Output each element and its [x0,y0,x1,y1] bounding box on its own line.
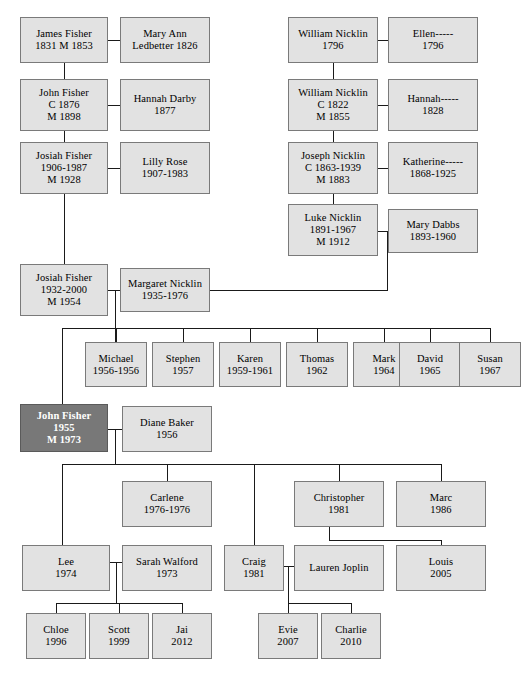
person-box-josiah_fisher2: Josiah Fisher1932-2000M 1954 [20,264,108,316]
connector-drop-jai [182,603,183,613]
person-line: Margaret Nicklin [128,278,202,290]
person-line: Sarah Walford [136,556,198,568]
person-line: Joseph Nicklin [301,150,365,162]
person-box-william_nicklin1: William Nicklin1796 [288,17,378,63]
person-line: 1981 [243,568,264,580]
person-line: 1906-1987 [41,162,87,174]
person-box-evie: Evie2007 [258,613,318,659]
person-line: 1981 [328,504,349,516]
connector-craig-lauren-marriage [284,566,294,567]
person-line: Hannah----- [407,93,458,105]
person-box-ellen: Ellen-----1796 [388,17,478,63]
person-box-karen: Karen1959-1961 [219,342,281,387]
connector-drop-karen [250,328,251,342]
person-line: Evie [278,624,298,636]
person-line: William Nicklin [298,87,368,99]
person-line: 1962 [306,365,327,377]
person-line: 2007 [277,636,298,648]
connector-drop-scott [119,603,120,613]
person-box-stephen: Stephen1957 [152,342,214,387]
person-line: Mark [372,353,395,365]
person-line: Ellen----- [413,28,454,40]
connector-craig-lauren-drop [288,566,289,603]
connector-craig-children-bar [288,603,351,604]
person-box-louis: Louis2005 [396,545,486,591]
person-line: 1956-1956 [93,365,139,377]
person-line: 1877 [154,105,175,117]
person-line: Luke Nicklin [305,212,362,224]
person-line: Susan [477,353,503,365]
person-box-david: David1965 [399,342,461,387]
person-box-scott: Scott1999 [89,613,149,659]
person-box-joseph_nicklin: Joseph NicklinC 1863-1939M 1883 [288,142,378,194]
person-line: Chloe [43,624,69,636]
connector-william1-ellen-marriage [378,40,388,41]
person-line: John Fisher [37,410,91,422]
person-line: 1964 [373,365,394,377]
person-box-luke_nicklin: Luke Nicklin1891-1967M 1912 [288,204,378,256]
connector-john-hannahdarby-marriage [108,105,120,106]
person-line: Christopher [314,492,365,504]
person-line: Karen [237,353,263,365]
person-line: C 1822 [317,99,348,111]
person-line: Charlie [335,624,367,636]
connector-drop-marc [441,464,442,481]
person-box-james_fisher: James Fisher1831 M 1853 [20,17,108,63]
person-line: 1831 M 1853 [35,40,93,52]
person-line: 1976-1976 [144,504,190,516]
person-line: M 1855 [316,111,350,123]
person-line: 1796 [322,40,343,52]
person-box-william_nicklin2: William NicklinC 1822M 1855 [288,79,378,131]
connector-drop-to-johnfisher2 [62,328,63,404]
person-box-jai: Jai2012 [152,613,212,659]
person-box-christopher: Christopher1981 [294,481,384,527]
connector-drop-christopher [339,464,340,481]
person-box-susan: Susan1967 [459,342,521,387]
person-line: 1955 [53,422,74,434]
connector-drop-charlie [351,603,352,613]
person-line: 1967 [479,365,500,377]
person-line: 1996 [45,636,66,648]
person-line: 1796 [422,40,443,52]
person-line: M 1954 [47,296,81,308]
person-line: C 1876 [48,99,79,111]
person-line: C 1863-1939 [305,162,361,174]
person-box-margaret_nicklin: Margaret Nicklin1935-1976 [120,268,210,312]
person-line: Stephen [166,353,201,365]
family-tree-diagram: James Fisher1831 M 1853Mary AnnLedbetter… [0,0,526,684]
connector-drop-david [430,328,431,342]
person-line: 1957 [172,365,193,377]
person-box-chloe: Chloe1996 [26,613,86,659]
person-line: 1999 [108,636,129,648]
person-line: 1956 [156,429,177,441]
person-box-diane_baker: Diane Baker1956 [122,406,212,452]
person-box-lilly_rose: Lilly Rose1907-1983 [120,142,210,194]
person-box-marc: Marc1986 [396,481,486,527]
person-line: 1965 [419,365,440,377]
person-line: 1893-1960 [410,231,456,243]
person-line: Jai [176,624,188,636]
connector-william1-to-william2 [333,63,334,79]
person-line: John Fisher [39,87,89,99]
connector-drop-susan [490,328,491,342]
connector-james-to-john [64,63,65,79]
connector-drop-michael [116,328,117,342]
connector-johnfisher2-children-bar [62,464,441,465]
person-line: Lilly Rose [142,156,187,168]
connector-christopher-to-louis-bar [329,540,441,541]
person-line: M 1912 [316,236,350,248]
person-line: M 1898 [47,111,81,123]
connector-drop-stephen [183,328,184,342]
person-box-lauren_joplin: Lauren Joplin [294,545,384,591]
person-line: Diane Baker [140,417,194,429]
person-box-craig: Craig1981 [224,545,284,591]
person-line: Scott [108,624,130,636]
person-line: David [417,353,443,365]
connector-drop-chloe [56,603,57,613]
person-line: Ledbetter 1826 [132,40,197,52]
person-line: Craig [242,556,266,568]
person-line: 1986 [430,504,451,516]
person-line: 1935-1976 [142,290,188,302]
person-line: M 1883 [316,174,350,186]
connector-drop-carlene [167,464,168,481]
